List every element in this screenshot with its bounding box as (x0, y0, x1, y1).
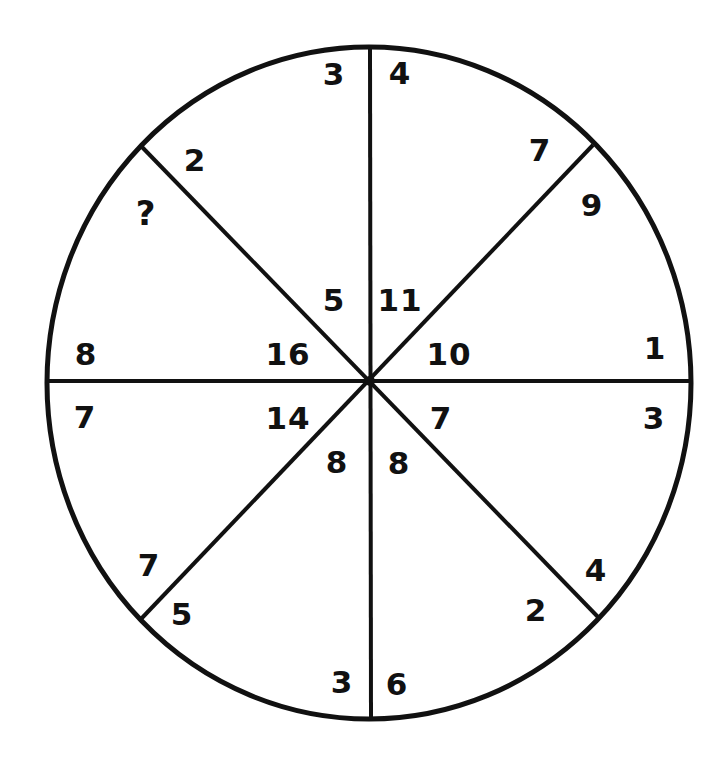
segment-number: 5 (323, 285, 346, 316)
puzzle-diagram: 3472?95118161017147388745236 (0, 0, 728, 764)
segment-number: 14 (265, 403, 310, 434)
segment-number: 7 (74, 402, 97, 433)
segment-number: 3 (323, 59, 346, 90)
missing-value-question-mark: ? (136, 196, 157, 230)
segment-number: 10 (426, 339, 471, 370)
segment-number: 3 (331, 667, 354, 698)
segment-number: 8 (388, 448, 411, 479)
segment-number: 8 (326, 447, 349, 478)
number-wheel (0, 0, 728, 764)
segment-number: 7 (138, 550, 161, 581)
segment-number: 5 (171, 599, 194, 630)
segment-number: 2 (184, 145, 207, 176)
segment-number: 7 (529, 135, 552, 166)
segment-number: 1 (644, 333, 667, 364)
segment-number: 16 (265, 339, 310, 370)
segment-number: 3 (643, 403, 666, 434)
segment-number: 7 (430, 403, 453, 434)
segment-number: 6 (386, 669, 409, 700)
center-hub (365, 376, 375, 386)
segment-number: 4 (389, 58, 412, 89)
segment-number: 4 (585, 555, 608, 586)
segment-number: 9 (581, 190, 604, 221)
segment-number: 8 (75, 339, 98, 370)
segment-number: 2 (525, 595, 548, 626)
segment-number: 11 (377, 285, 422, 316)
